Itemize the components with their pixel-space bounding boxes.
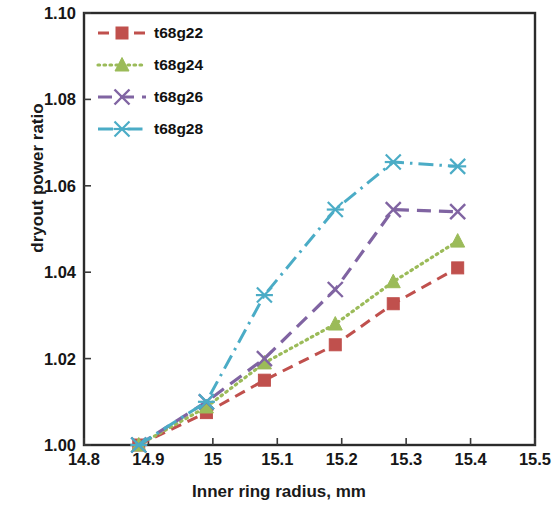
y-tick-label: 1.08 [6, 91, 76, 108]
x-tick-label: 15.5 [500, 451, 558, 468]
y-tick-label: 1.10 [6, 5, 76, 22]
axis-ticks [84, 13, 535, 445]
x-tick-label: 14.9 [113, 451, 183, 468]
x-tick-label: 15.2 [307, 451, 377, 468]
legend-item-t68g22[interactable]: t68g22 [96, 22, 203, 44]
x-tick-label: 15 [178, 451, 248, 468]
plot-frame [84, 13, 535, 445]
legend-label: t68g22 [154, 24, 203, 42]
data-series-group [130, 155, 466, 453]
plot-area [0, 0, 558, 508]
chart-container: dryout power ratio 1.001.021.041.061.081… [0, 0, 558, 508]
x-axis-title: Inner ring radius, mm [0, 482, 558, 502]
y-tick-label: 1.04 [6, 264, 76, 281]
legend-swatch-triangle-icon [96, 55, 148, 75]
series-t68g28 [130, 155, 466, 453]
series-t68g26 [131, 202, 465, 452]
y-tick-label: 1.06 [6, 178, 76, 195]
legend-swatch-cross-icon [96, 87, 148, 107]
legend-label: t68g24 [154, 56, 203, 74]
series-t68g22 [133, 262, 464, 451]
x-tick-label: 15.3 [371, 451, 441, 468]
legend-swatch-square-icon [96, 23, 148, 43]
x-tick-label: 15.1 [242, 451, 312, 468]
legend-label: t68g26 [154, 88, 203, 106]
x-tick-label: 15.4 [436, 451, 506, 468]
x-tick-label: 14.8 [49, 451, 119, 468]
legend-item-t68g26[interactable]: t68g26 [96, 86, 203, 108]
y-tick-label: 1.02 [6, 351, 76, 368]
legend-label: t68g28 [154, 120, 203, 138]
legend-item-t68g24[interactable]: t68g24 [96, 54, 203, 76]
legend-swatch-asterisk-icon [96, 119, 148, 139]
legend-item-t68g28[interactable]: t68g28 [96, 118, 203, 140]
